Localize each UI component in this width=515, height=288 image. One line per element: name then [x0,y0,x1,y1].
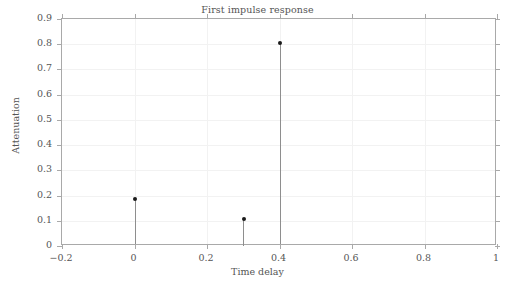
y-axis-tick [57,19,62,20]
y-axis-tick-right [495,145,500,146]
stem-line [243,219,244,246]
plot-area [61,18,496,245]
x-axis-tick-top [207,14,208,19]
y-axis-tick-right [495,69,500,70]
y-axis-tick-label: 0.1 [0,214,52,225]
y-axis-tick-label: 0.7 [0,62,52,73]
gridline-vertical [207,19,208,244]
y-axis-tick-label: 0.2 [0,189,52,200]
stem-line [280,43,281,246]
chart-title: First impulse response [0,4,515,15]
gridline-horizontal [62,69,495,70]
gridline-horizontal [62,120,495,121]
x-axis-tick-top [425,14,426,19]
y-axis-tick-label: 0.9 [0,12,52,23]
y-axis-tick-right [495,120,500,121]
y-axis-tick-label: 0.8 [0,37,52,48]
gridline-horizontal [62,196,495,197]
data-point-marker [133,197,137,201]
y-axis-tick [57,145,62,146]
x-axis-tick [280,244,281,249]
x-axis-tick [497,244,498,249]
x-axis-tick-label: 0 [109,252,159,263]
y-axis-tick [57,120,62,121]
x-axis-tick-top [62,14,63,19]
x-axis-tick-top [352,14,353,19]
y-axis-tick [57,170,62,171]
x-axis-tick-label: 0.8 [399,252,449,263]
y-axis-tick-label: 0.5 [0,113,52,124]
y-axis-tick-right [495,196,500,197]
x-axis-tick-label: 0.2 [181,252,231,263]
y-axis-tick-right [495,19,500,20]
y-axis-tick-label: 0 [0,239,52,250]
y-axis-tick [57,196,62,197]
y-axis-tick [57,95,62,96]
gridline-vertical [425,19,426,244]
x-axis-tick-label: 0.4 [254,252,304,263]
gridline-horizontal [62,145,495,146]
x-axis-tick [62,244,63,249]
gridline-horizontal [62,95,495,96]
y-axis-tick-right [495,44,500,45]
gridline-horizontal [62,221,495,222]
x-axis-tick [135,244,136,249]
x-axis-label: Time delay [0,266,515,277]
x-axis-tick-top [280,14,281,19]
chart-figure: First impulse response Attenuation Time … [0,0,515,288]
x-axis-tick [425,244,426,249]
x-axis-tick-top [135,14,136,19]
y-axis-tick [57,44,62,45]
y-axis-tick-right [495,95,500,96]
y-axis-tick-label: 0.3 [0,163,52,174]
y-axis-tick-label: 0.6 [0,88,52,99]
y-axis-tick [57,221,62,222]
x-axis-tick [352,244,353,249]
data-point-marker [278,41,282,45]
data-point-marker [242,217,246,221]
x-axis-tick [207,244,208,249]
x-axis-tick-label: 0.6 [326,252,376,263]
x-axis-tick-label: −0.2 [36,252,86,263]
y-axis-tick [57,69,62,70]
x-axis-tick-label: 1 [471,252,515,263]
plot-inner [62,19,495,244]
stem-line [135,199,136,246]
y-axis-tick-right [495,221,500,222]
y-axis-tick-label: 0.4 [0,138,52,149]
y-axis-tick-right [495,170,500,171]
x-axis-tick-top [497,14,498,19]
gridline-vertical [352,19,353,244]
gridline-horizontal [62,170,495,171]
